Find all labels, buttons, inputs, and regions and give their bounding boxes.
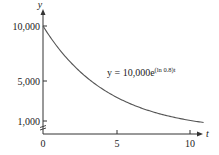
equation-exponent: (ln 0.8)t <box>155 66 176 74</box>
x-tick-label-10: 10 <box>185 138 195 149</box>
exponential-decay-chart: y t 10,000 5,000 1,000 0 5 10 y = 10,000… <box>0 0 219 155</box>
y-tick-label-1000: 1,000 <box>18 116 41 127</box>
y-axis-label: y <box>37 0 43 10</box>
ticks <box>43 26 190 134</box>
x-axis-arrow-icon <box>197 132 203 137</box>
x-axis-label: t <box>206 128 209 139</box>
x-tick-label-5: 5 <box>115 138 120 149</box>
y-tick-label-10000: 10,000 <box>13 21 41 32</box>
x-tick-label-0: 0 <box>41 138 46 149</box>
y-tick-label-5000: 5,000 <box>18 76 41 87</box>
equation-base: y = 10,000e <box>107 67 155 78</box>
equation-label: y = 10,000e(ln 0.8)t <box>107 66 176 78</box>
